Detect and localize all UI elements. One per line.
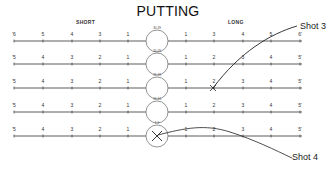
long-tick-label: 6' xyxy=(298,31,302,37)
short-tick-label: 2 xyxy=(99,126,102,132)
short-tick-label: 4 xyxy=(42,126,45,132)
long-tick-label: 1 xyxy=(185,31,188,37)
short-tick-label: 3 xyxy=(71,126,74,132)
short-tick-label: '5 xyxy=(12,78,16,84)
hole-circle xyxy=(146,53,168,75)
long-tick-label: 3 xyxy=(242,78,245,84)
distance-range-label: 30-39 xyxy=(153,26,161,30)
short-tick-label: 1 xyxy=(127,31,130,37)
long-tick-label: 5' xyxy=(298,126,302,132)
short-tick-label: 5 xyxy=(42,31,45,37)
long-tick-label: 1 xyxy=(185,54,188,60)
long-tick-label: 3 xyxy=(213,31,216,37)
short-tick-label: 4 xyxy=(71,31,74,37)
short-tick-label: '5 xyxy=(12,126,16,132)
long-tick-label: 2 xyxy=(213,54,216,60)
short-tick-label: 1 xyxy=(127,126,130,132)
long-tick-label: 4 xyxy=(270,102,273,108)
short-tick-label: 4 xyxy=(42,54,45,60)
short-tick-label: 4 xyxy=(42,78,45,84)
putting-row: 20-29'5432112345' xyxy=(12,49,302,75)
short-tick-label: 1 xyxy=(127,102,130,108)
shot-3-path xyxy=(213,26,297,88)
shot-3-label: Shot 3 xyxy=(300,21,326,31)
short-tick-label: 3 xyxy=(99,31,102,37)
long-tick-label: 5' xyxy=(298,102,302,108)
shot-4-path xyxy=(158,128,292,158)
long-tick-label: 3 xyxy=(242,126,245,132)
long-tick-label: 4 xyxy=(242,31,245,37)
distance-range-label: 20-29 xyxy=(153,49,161,53)
distance-range-label: 1-9 xyxy=(155,121,160,125)
shot-4-label: Shot 4 xyxy=(292,152,318,162)
long-tick-label: 1 xyxy=(185,78,188,84)
long-tick-label: 2 xyxy=(213,102,216,108)
long-tick-label: 3 xyxy=(242,102,245,108)
hole-circle xyxy=(146,101,168,123)
long-tick-label: 4 xyxy=(270,126,273,132)
long-tick-label: 4 xyxy=(270,54,273,60)
short-tick-label: 3 xyxy=(71,78,74,84)
distance-range-label: 15-19 xyxy=(153,73,161,77)
long-tick-label: 5' xyxy=(298,54,302,60)
long-tick-label: 2 xyxy=(213,78,216,84)
short-tick-label: 3 xyxy=(71,102,74,108)
short-tick-label: '6 xyxy=(12,31,16,37)
putting-row: 10-14'5432112345' xyxy=(12,97,302,123)
long-tick-label: 5' xyxy=(298,78,302,84)
short-tick-label: 2 xyxy=(99,102,102,108)
distance-range-label: 10-14 xyxy=(153,97,161,101)
short-tick-label: 4 xyxy=(42,102,45,108)
short-tick-label: 2 xyxy=(99,78,102,84)
short-tick-label: '5 xyxy=(12,54,16,60)
putting-diagram: 30-39'6543113456'20-29'5432112345'15-19'… xyxy=(0,0,336,178)
short-tick-label: 2 xyxy=(99,54,102,60)
short-tick-label: 3 xyxy=(71,54,74,60)
short-tick-label: 1 xyxy=(127,54,130,60)
hole-circle xyxy=(146,77,168,99)
long-tick-label: 1 xyxy=(185,102,188,108)
short-tick-label: '5 xyxy=(12,102,16,108)
putting-row: 15-19'5432112345' xyxy=(12,73,302,99)
long-tick-label: 4 xyxy=(270,78,273,84)
long-tick-label: 2 xyxy=(213,126,216,132)
short-tick-label: 1 xyxy=(127,78,130,84)
